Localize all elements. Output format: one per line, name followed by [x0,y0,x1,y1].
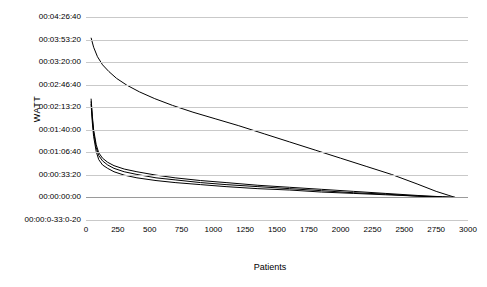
y-tick-label: 00:02:13:20 [39,103,81,111]
x-tick-label: 250 [111,226,124,234]
gridline [86,62,468,63]
series-line [91,99,455,198]
gridline [86,220,468,221]
series-line [91,104,455,197]
gridline [86,152,468,153]
plot-area [86,17,468,220]
gridline [86,107,468,108]
x-tick-label: 2750 [427,226,445,234]
x-axis-tick-labels: 0250500750100012501500175020002250250027… [0,226,487,242]
y-tick-label: 00:00:00:00 [39,193,81,201]
y-tick-label: 00:02:46:40 [39,81,81,89]
axis-baseline [86,197,468,198]
x-tick-label: 500 [143,226,156,234]
x-tick-label: 0 [84,226,88,234]
x-tick-label: 3000 [459,226,477,234]
x-tick-label: 1250 [236,226,254,234]
y-tick-label: 00:03:20:00 [39,58,81,66]
gridline [86,17,468,18]
x-tick-label: 1750 [300,226,318,234]
y-tick-label: 00:04:26:40 [39,13,81,21]
y-axis-tick-labels: 00:04:26:4000:03:53:2000:03:20:0000:02:4… [0,0,84,240]
y-tick-label: 00:03:53:20 [39,36,81,44]
x-tick-label: 1500 [268,226,286,234]
gridline [86,130,468,131]
x-tick-label: 750 [175,226,188,234]
gridline [86,40,468,41]
x-tick-label: 2500 [395,226,413,234]
y-tick-label: 00:00:0-33:0-20 [25,216,82,224]
x-tick-label: 2000 [332,226,350,234]
x-tick-label: 2250 [364,226,382,234]
y-tick-label: 00:01:40:00 [39,126,81,134]
series-layer [86,17,468,220]
gridline [86,175,468,176]
x-tick-label: 1000 [204,226,222,234]
chart-container: WATT 00:04:26:4000:03:53:2000:03:20:0000… [0,0,487,287]
gridline [86,85,468,86]
y-tick-label: 00:01:06:40 [39,148,81,156]
series-line [91,101,455,197]
y-tick-label: 00:00:33:20 [39,171,81,179]
x-axis-title: Patients [60,262,480,272]
